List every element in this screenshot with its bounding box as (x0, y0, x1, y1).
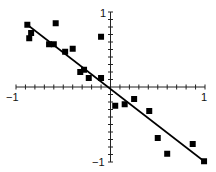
data-point-marker (131, 96, 137, 102)
y-min-tick-label: −1 (92, 156, 105, 168)
data-point-marker (28, 30, 34, 36)
data-point-marker (164, 151, 170, 157)
data-point-marker (53, 20, 59, 26)
data-point-marker (146, 108, 152, 114)
data-point-marker (112, 103, 118, 109)
data-point-marker (26, 35, 32, 41)
scatter-chart: −1 1 1 −1 (0, 0, 216, 172)
data-point-marker (70, 46, 76, 52)
data-point-marker (62, 49, 68, 55)
data-point-marker (51, 41, 57, 47)
data-point-marker (155, 135, 161, 141)
data-point-marker (122, 101, 128, 107)
data-point-marker (98, 34, 104, 40)
data-point-marker (98, 75, 104, 81)
data-point-marker (190, 141, 196, 147)
data-point-marker (201, 158, 207, 164)
data-point-marker (81, 67, 87, 73)
y-max-tick-label: 1 (100, 7, 106, 19)
x-max-tick-label: 1 (201, 91, 207, 103)
data-point-marker (24, 22, 30, 28)
x-min-tick-label: −1 (6, 91, 19, 103)
data-point-marker (86, 75, 92, 81)
